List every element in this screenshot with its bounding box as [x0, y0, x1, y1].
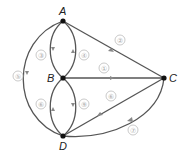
node-a	[60, 18, 65, 23]
edge-4-b-a-right	[63, 21, 76, 78]
svg-text:⑨: ⑨	[81, 101, 87, 108]
edge-label-4: ④	[79, 50, 89, 60]
svg-text:⑤: ⑤	[15, 73, 21, 80]
edge-label-3: ③	[36, 50, 46, 60]
node-d	[60, 133, 65, 138]
arrow-4-icon	[71, 49, 75, 53]
arrow-7-icon	[127, 117, 133, 122]
edge-9-b-d-right	[63, 78, 76, 136]
graph-diagram: ① ② ③ ④ ⑤ ⑥ ⑨ ⑥ ⑦ A B C D	[0, 0, 190, 155]
arrow-9-icon	[71, 103, 75, 107]
edge-label-9: ⑨	[79, 99, 89, 109]
edge-6-d-b-left	[50, 78, 63, 136]
edge-label-1: ①	[99, 63, 109, 73]
node-b	[60, 75, 65, 80]
node-label-b: B	[47, 72, 54, 84]
arrow-6-left-icon	[51, 107, 55, 111]
svg-text:④: ④	[81, 52, 87, 59]
edge-label-7: ⑦	[128, 125, 138, 135]
svg-text:②: ②	[117, 37, 123, 44]
svg-text:⑥: ⑥	[108, 93, 114, 100]
arrow-1-icon	[110, 76, 114, 80]
svg-text:①: ①	[101, 65, 107, 72]
node-label-a: A	[58, 5, 66, 17]
edge-6-c-d-straight	[63, 78, 164, 136]
edge-5-a-d	[23, 21, 63, 136]
edge-label-2: ②	[115, 35, 125, 45]
edge-label-6-right: ⑥	[106, 91, 116, 101]
svg-text:③: ③	[38, 52, 44, 59]
arrow-5-icon	[25, 71, 29, 75]
edge-label-6-left: ⑥	[36, 99, 46, 109]
edge-3-a-b-left	[50, 21, 63, 78]
edge-label-5: ⑤	[13, 71, 23, 81]
arrow-3-icon	[51, 47, 55, 51]
node-label-c: C	[169, 72, 177, 84]
node-c	[161, 75, 166, 80]
edge-2-a-c	[63, 21, 164, 78]
svg-text:⑦: ⑦	[130, 127, 136, 134]
node-label-d: D	[59, 140, 67, 152]
svg-text:⑥: ⑥	[38, 101, 44, 108]
